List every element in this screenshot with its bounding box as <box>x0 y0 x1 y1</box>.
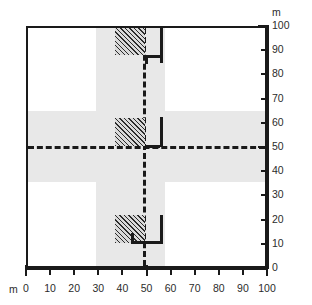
y-axis-tick <box>261 194 268 196</box>
y-axis-tick <box>261 243 268 245</box>
y-axis-tick <box>258 146 269 148</box>
plot-area <box>26 26 267 268</box>
x-axis-tick <box>25 265 27 276</box>
x-axis-tick-label: 100 <box>253 283 281 293</box>
wall-segment <box>131 233 134 243</box>
y-axis-tick-label: 100 <box>272 20 290 30</box>
wall-segment <box>131 241 161 244</box>
y-axis-tick-label: 20 <box>272 214 284 224</box>
y-axis-tick-label: 80 <box>272 68 284 78</box>
y-axis-tick-label: 50 <box>272 141 284 151</box>
x-axis-tick <box>97 268 99 275</box>
wall-segment <box>160 215 163 244</box>
x-axis-tick <box>194 268 196 275</box>
x-axis-tick <box>218 268 220 275</box>
y-axis-tick-label: 70 <box>272 93 284 103</box>
y-axis-tick <box>261 98 268 100</box>
y-axis-tick-label: 40 <box>272 165 284 175</box>
y-axis-tick-label: 60 <box>272 117 284 127</box>
y-axis-tick-label: 0 <box>272 262 278 272</box>
y-axis-unit-label: m <box>272 6 281 18</box>
y-axis-tick <box>261 170 268 172</box>
y-axis-tick <box>261 73 268 75</box>
x-axis-tick <box>146 265 148 276</box>
x-axis-tick <box>73 268 75 275</box>
y-axis-tick-label: 10 <box>272 238 284 248</box>
wall-polyline-bottom <box>28 28 265 266</box>
y-axis-tick-label: 90 <box>272 44 284 54</box>
y-axis-tick <box>261 49 268 51</box>
y-axis-tick <box>258 25 269 27</box>
y-axis-tick-label: 30 <box>272 189 284 199</box>
site-plan-figure: m 1009080706050403020100 010203040506070… <box>0 0 312 305</box>
y-axis-tick <box>261 122 268 124</box>
x-axis-tick <box>266 265 268 276</box>
x-axis-unit-label: m <box>9 283 18 295</box>
y-axis-tick <box>261 219 268 221</box>
x-axis-tick <box>170 268 172 275</box>
x-axis-tick <box>121 268 123 275</box>
x-axis-tick <box>242 268 244 275</box>
x-axis-tick <box>49 268 51 275</box>
